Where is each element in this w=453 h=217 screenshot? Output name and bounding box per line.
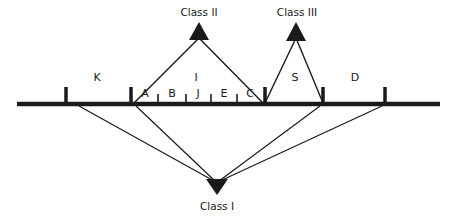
subsegment-label-e: E bbox=[221, 87, 228, 100]
class-3-label: Class III bbox=[277, 6, 317, 18]
subsegment-label-b: B bbox=[168, 87, 176, 100]
class-3-triangle-icon bbox=[286, 22, 306, 41]
class-1-connectors bbox=[79, 106, 382, 181]
class-1-triangle-icon bbox=[206, 179, 228, 195]
class-2-label: Class II bbox=[180, 6, 217, 18]
class-2-triangle-icon bbox=[189, 22, 209, 40]
subsegment-label-a: A bbox=[141, 87, 149, 100]
segment-label-i: I bbox=[194, 71, 197, 84]
subsegment-label-j: J bbox=[195, 87, 199, 100]
segment-label-s: S bbox=[292, 71, 299, 84]
subsegment-label-c: C bbox=[246, 87, 254, 100]
class-1-label: Class I bbox=[200, 200, 234, 212]
segment-label-d: D bbox=[351, 71, 359, 84]
segment-label-k: K bbox=[93, 71, 101, 84]
classification-diagram: Class II Class III Class I K I S D A B J… bbox=[0, 0, 453, 217]
